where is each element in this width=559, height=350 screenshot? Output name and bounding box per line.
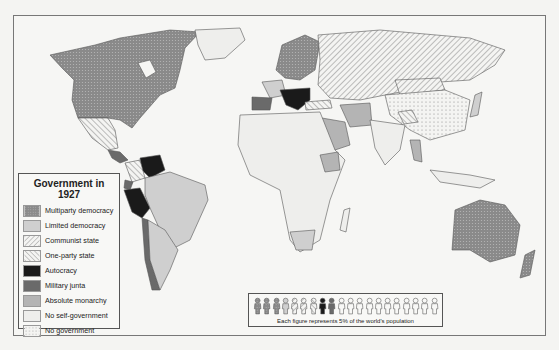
person-figure-icon [337, 297, 346, 315]
swatch-monarchy-icon [23, 295, 41, 307]
region-turkey [305, 100, 332, 110]
region-indonesia [430, 170, 495, 188]
person-figure-icon [365, 297, 374, 315]
person-figure-icon [299, 297, 308, 315]
swatch-autocracy-icon [23, 265, 41, 277]
legend-item-absolute-monarchy: Absolute monarchy [23, 293, 115, 308]
swatch-communist-icon [23, 235, 41, 247]
legend-label: Limited democracy [45, 221, 105, 230]
region-north-america [50, 30, 200, 128]
legend-item-no-self-government: No self-government [23, 308, 115, 323]
region-australia [452, 200, 520, 262]
person-figure-icon [327, 297, 336, 315]
person-figure-icon [272, 297, 281, 315]
person-figure-icon [309, 297, 318, 315]
person-figure-icon [318, 297, 327, 315]
region-japan [470, 92, 482, 117]
region-siam [410, 140, 422, 162]
legend-item-autocracy: Autocracy [23, 263, 115, 278]
legend-item-communist-state: Communist state [23, 233, 115, 248]
legend-label: One-party state [45, 251, 95, 260]
population-caption: Each figure represents 5% of the world's… [249, 318, 442, 324]
legend-label: Autocracy [45, 266, 77, 275]
legend-item-multiparty-democracy: Multiparty democracy [23, 203, 115, 218]
region-northern-europe [276, 35, 320, 80]
person-figure-icon [355, 297, 364, 315]
region-spain [252, 97, 272, 110]
legend-label: No self-government [45, 311, 108, 320]
region-india [370, 120, 405, 165]
person-figure-icon [392, 297, 401, 315]
person-figure-icon [430, 297, 439, 315]
legend: Government in 1927 Multiparty democracy … [18, 173, 120, 329]
region-greenland [195, 28, 245, 60]
legend-label: Absolute monarchy [45, 296, 107, 305]
region-south-africa [290, 230, 315, 250]
region-ecuador [124, 180, 133, 190]
person-figure-icon [411, 297, 420, 315]
legend-label: Military junta [45, 281, 85, 290]
swatch-limited-icon [23, 220, 41, 232]
population-figures [253, 297, 439, 315]
region-madagascar [340, 208, 350, 232]
person-figure-icon [290, 297, 299, 315]
person-figure-icon [281, 297, 290, 315]
legend-title: Government in 1927 [23, 178, 115, 200]
legend-label: No government [45, 326, 94, 335]
person-figure-icon [383, 297, 392, 315]
legend-item-military-junta: Military junta [23, 278, 115, 293]
legend-item-limited-democracy: Limited democracy [23, 218, 115, 233]
swatch-oneparty-icon [23, 250, 41, 262]
person-figure-icon [346, 297, 355, 315]
region-new-zealand [520, 250, 535, 278]
person-figure-icon [262, 297, 271, 315]
swatch-junta-icon [23, 280, 41, 292]
region-mexico [78, 118, 118, 150]
person-figure-icon [420, 297, 429, 315]
swatch-multiparty-icon [23, 205, 41, 217]
person-figure-icon [402, 297, 411, 315]
legend-item-no-government: No government [23, 323, 115, 338]
swatch-noself-icon [23, 310, 41, 322]
swatch-nogov-icon [23, 325, 41, 337]
legend-item-one-party-state: One-party state [23, 248, 115, 263]
person-figure-icon [253, 297, 262, 315]
person-figure-icon [374, 297, 383, 315]
legend-label: Communist state [45, 236, 99, 245]
region-central-america [108, 150, 128, 163]
legend-label: Multiparty democracy [45, 206, 113, 215]
population-box: Each figure represents 5% of the world's… [248, 293, 443, 327]
